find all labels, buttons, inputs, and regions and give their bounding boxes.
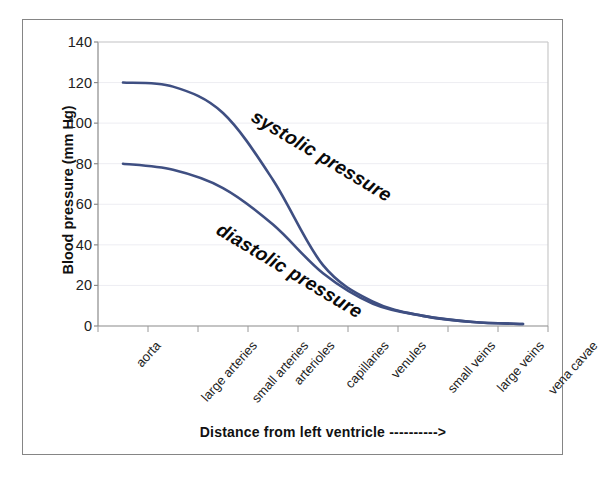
plot-area: systolic pressure diastolic pressure <box>98 42 548 326</box>
x-tick-label-large-veins: large veins <box>494 338 547 395</box>
y-tick-label: 0 <box>52 319 92 334</box>
y-tick-label: 120 <box>52 76 92 91</box>
y-tick-label: 100 <box>52 116 92 131</box>
x-axis-tick-labels: aorta large arteries small arteries arte… <box>98 326 548 436</box>
y-axis-title-holder: Blood pressure (mm Hg) <box>28 42 52 326</box>
x-axis-title: Distance from left ventricle ----------> <box>98 424 548 440</box>
y-tick-label: 40 <box>52 238 92 253</box>
x-tick-label-aorta: aorta <box>133 338 164 370</box>
x-tick-text: small veins <box>444 338 498 396</box>
y-tick-label: 80 <box>52 157 92 172</box>
y-tick-label: 60 <box>52 197 92 212</box>
x-tick-text: capillaries <box>342 338 392 391</box>
x-tick-text: aorta <box>133 338 164 370</box>
x-tick-label-capillaries: capillaries <box>342 338 392 391</box>
y-axis-tick-labels: 140 120 100 80 60 40 20 0 <box>50 42 92 326</box>
x-tick-label-small-veins: small veins <box>444 338 498 396</box>
y-tick-label: 140 <box>52 35 92 50</box>
x-tick-text: venules <box>388 338 429 381</box>
y-tick-label: 20 <box>52 278 92 293</box>
x-tick-text: large veins <box>494 338 547 395</box>
x-tick-label-venules: venules <box>388 338 429 381</box>
